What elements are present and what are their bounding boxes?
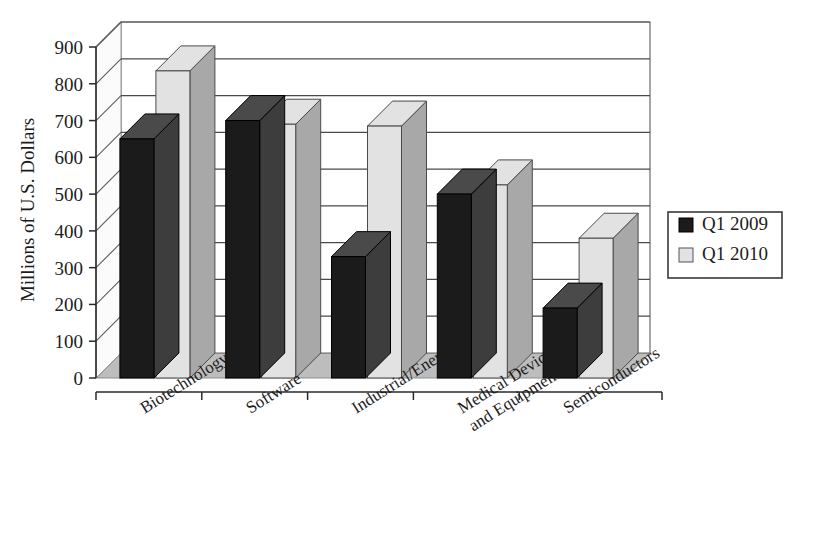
y-axis-tick-label: 100 (55, 331, 84, 352)
chart-svg: 0100200300400500600700800900 Biotechnolo… (0, 0, 831, 543)
bar-q1-2009-0 (120, 114, 179, 378)
light-square-icon (679, 248, 693, 262)
legend-label-1: Q1 2010 (702, 243, 768, 264)
y-axis-tick-label: 900 (55, 37, 84, 58)
y-axis-group: 0100200300400500600700800900 (55, 37, 97, 389)
bar-q1-2009-2 (332, 232, 391, 378)
bar-q1-2009-1 (226, 96, 285, 378)
y-axis-tick-label: 400 (55, 221, 84, 242)
chart-figure: 0100200300400500600700800900 Biotechnolo… (0, 0, 831, 543)
y-axis-tick-label: 600 (55, 147, 84, 168)
legend: Q1 2009Q1 2010 (668, 212, 782, 278)
y-axis-tick-label: 300 (55, 258, 84, 279)
y-axis-tick-label: 500 (55, 184, 84, 205)
dark-square-icon (679, 218, 693, 232)
legend-label-0: Q1 2009 (702, 213, 768, 234)
y-axis-tick-label: 200 (55, 294, 84, 315)
y-axis-title-text: Millions of U.S. Dollars (17, 118, 38, 302)
left-side-wall (96, 22, 121, 378)
y-axis-tick-label: 700 (55, 111, 84, 132)
y-axis-tick-label: 0 (74, 368, 84, 389)
y-axis-title: Millions of U.S. Dollars (17, 118, 38, 302)
y-axis-tick-label: 800 (55, 74, 84, 95)
